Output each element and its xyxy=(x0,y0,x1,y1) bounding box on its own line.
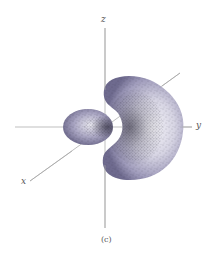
small-lobe xyxy=(60,105,116,150)
z-axis-label: z xyxy=(101,15,106,24)
orbital-plot xyxy=(0,0,213,256)
y-axis-label: y xyxy=(196,121,201,130)
orbital-diagram: z y x (c) xyxy=(0,0,213,256)
figure-caption: (c) xyxy=(101,236,112,244)
x-axis-label: x xyxy=(21,177,26,186)
